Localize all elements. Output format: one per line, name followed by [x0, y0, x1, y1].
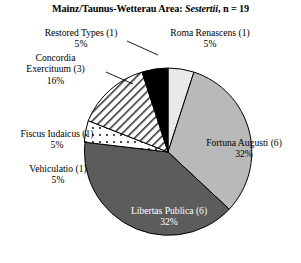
slice-label-restored-types: Restored Types (1) 5% [22, 27, 140, 50]
slice-label-libertas-publica-name: Libertas Publica (6) [131, 205, 207, 216]
slice-label-fortuna-augusti-percent: 32% [188, 148, 300, 159]
slice-label-vehiculatio-percent: 5% [2, 174, 114, 185]
slice-label-fiscus-iudaicus-name: Fiscus Iudaicus (1) [20, 128, 93, 139]
slice-label-concordia-exercituum-line2: Exercituum (3) [3, 63, 108, 74]
slice-label-roma-renascens-name: Roma Renascens (1) [170, 27, 249, 38]
slice-label-concordia-exercituum-line1: Concordia [36, 52, 76, 63]
slice-label-concordia-exercituum-percent: 16% [3, 75, 108, 86]
slice-label-roma-renascens: Roma Renascens (1) 5% [150, 27, 270, 50]
slice-label-concordia-exercituum: Concordia Exercituum (3) 16% [3, 52, 108, 86]
slice-label-restored-types-name: Restored Types (1) [45, 27, 118, 38]
slice-label-vehiculatio: Vehiculatio (1) 5% [2, 163, 114, 186]
slice-label-libertas-publica-percent: 32% [104, 216, 234, 227]
slice-label-fiscus-iudaicus-percent: 5% [0, 139, 118, 150]
slice-label-roma-renascens-percent: 5% [150, 38, 270, 49]
slice-label-fortuna-augusti-name: Fortuna Augusti (6) [206, 137, 282, 148]
pie-chart-figure: Mainz/Taunus-Wetterau Area: Sestertii, n… [0, 0, 301, 263]
slice-label-fiscus-iudaicus: Fiscus Iudaicus (1) 5% [0, 128, 118, 151]
slice-label-restored-types-percent: 5% [22, 38, 140, 49]
slice-label-vehiculatio-name: Vehiculatio (1) [29, 163, 86, 174]
slice-label-fortuna-augusti: Fortuna Augusti (6) 32% [188, 137, 300, 160]
slice-label-libertas-publica: Libertas Publica (6) 32% [104, 205, 234, 228]
